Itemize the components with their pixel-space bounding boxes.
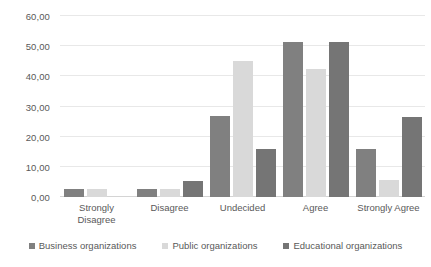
legend-swatch-icon	[162, 243, 168, 249]
bar[interactable]	[256, 149, 276, 197]
bar-group	[133, 16, 206, 197]
plot-area	[60, 16, 425, 197]
x-tick-label: StronglyDisagree	[60, 200, 133, 234]
bar-groups	[60, 16, 425, 197]
bar-group	[352, 16, 425, 197]
legend-swatch-icon	[283, 243, 289, 249]
bar[interactable]	[210, 116, 230, 197]
x-tick-label: Agree	[279, 200, 352, 234]
legend-swatch-icon	[29, 243, 35, 249]
y-tick-label: 30,00	[26, 101, 50, 112]
legend-label: Public organizations	[172, 240, 257, 251]
x-tick-label: Strongly Agree	[352, 200, 425, 234]
y-tick-label: 40,00	[26, 71, 50, 82]
bar[interactable]	[137, 189, 157, 197]
legend-label: Business organizations	[39, 240, 137, 251]
x-tick-label-line: Disagree	[60, 214, 133, 226]
bar[interactable]	[87, 189, 107, 197]
bar[interactable]	[379, 180, 399, 197]
bar-group	[279, 16, 352, 197]
y-tick-label: 20,00	[26, 131, 50, 142]
legend-item[interactable]: Public organizations	[162, 240, 257, 251]
y-tick-label: 50,00	[26, 41, 50, 52]
bar-chart: 0,0010,0020,0030,0040,0050,0060,00 Stron…	[0, 0, 431, 267]
bar[interactable]	[183, 181, 203, 197]
chart-legend: Business organizationsPublic organizatio…	[0, 240, 431, 251]
legend-item[interactable]: Business organizations	[29, 240, 137, 251]
y-tick-label: 0,00	[31, 192, 50, 203]
x-tick-label: Disagree	[133, 200, 206, 234]
bar[interactable]	[160, 189, 180, 197]
bar-group	[60, 16, 133, 197]
bar[interactable]	[233, 61, 253, 197]
x-tick-label-line: Undecided	[206, 202, 279, 214]
x-tick-label: Undecided	[206, 200, 279, 234]
y-axis: 0,0010,0020,0030,0040,0050,0060,00	[0, 16, 56, 197]
bar[interactable]	[306, 69, 326, 197]
bar[interactable]	[402, 117, 422, 197]
x-tick-label-line: Agree	[279, 202, 352, 214]
bar[interactable]	[329, 42, 349, 197]
legend-item[interactable]: Educational organizations	[283, 240, 402, 251]
legend-label: Educational organizations	[293, 240, 402, 251]
x-tick-label-line: Strongly Agree	[352, 202, 425, 214]
x-tick-label-line: Strongly	[60, 202, 133, 214]
y-tick-label: 10,00	[26, 161, 50, 172]
bar[interactable]	[283, 42, 303, 197]
bar[interactable]	[64, 189, 84, 197]
bar-group	[206, 16, 279, 197]
x-tick-label-line: Disagree	[133, 202, 206, 214]
y-tick-label: 60,00	[26, 11, 50, 22]
x-axis: StronglyDisagreeDisagreeUndecidedAgreeSt…	[60, 200, 425, 234]
bar[interactable]	[356, 149, 376, 197]
